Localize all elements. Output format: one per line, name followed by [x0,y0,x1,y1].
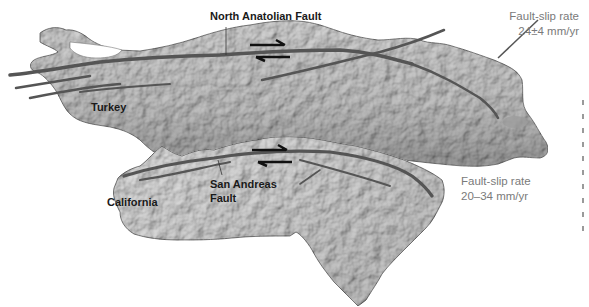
page-edge-marks [582,100,585,307]
north-anatolian-fault-label: North Anatolian Fault [210,10,321,23]
fault-comparison-figure: North Anatolian Fault Turkey Fault-slip … [0,0,589,307]
relief-maps [0,0,589,307]
san-andreas-label-line2: Fault [210,191,277,205]
turkey-slip-rate-title: Fault-slip rate [493,9,579,24]
california-slip-rate-title: Fault-slip rate [461,174,531,189]
california-slip-rate: Fault-slip rate 20–34 mm/yr [461,174,531,204]
turkey-label: Turkey [91,101,126,114]
san-andreas-label-line1: San Andreas [210,177,277,191]
turkey-slip-rate-value: 24±4 mm/yr [493,24,579,39]
california-label: California [107,196,158,209]
turkey-slip-rate: Fault-slip rate 24±4 mm/yr [493,9,579,39]
san-andreas-fault-label: San Andreas Fault [210,177,277,205]
california-slip-rate-value: 20–34 mm/yr [461,189,531,204]
